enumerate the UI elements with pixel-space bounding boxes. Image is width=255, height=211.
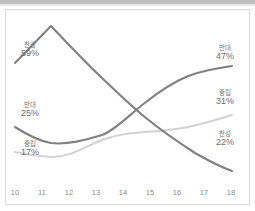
x-tick-4: 14 <box>112 188 134 197</box>
line-chart-plot <box>6 10 251 206</box>
x-tick-8: 18 <box>220 188 242 197</box>
x-tick-7: 17 <box>193 188 215 197</box>
chart-frame: 찬성 59% 반대 25% 중립 17% 반대 47% 중립 31% 찬성 22… <box>5 9 250 205</box>
top-clipped-bar-shadow <box>0 4 255 6</box>
x-tick-5: 15 <box>139 188 161 197</box>
x-tick-6: 16 <box>166 188 188 197</box>
x-tick-0: 10 <box>4 188 26 197</box>
series-line-agree <box>15 26 232 171</box>
x-tick-2: 12 <box>58 188 80 197</box>
series-line-oppose <box>15 66 232 143</box>
x-tick-1: 11 <box>31 188 53 197</box>
x-tick-3: 13 <box>85 188 107 197</box>
screenshot-root: 찬성 59% 반대 25% 중립 17% 반대 47% 중립 31% 찬성 22… <box>0 0 255 211</box>
